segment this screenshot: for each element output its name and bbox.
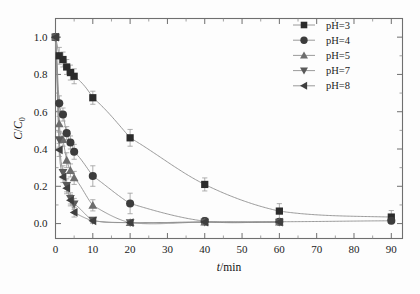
legend-label: pH=8 [326, 80, 350, 91]
data-point-pH=3-5 [71, 73, 78, 80]
data-point-pH=4-3 [63, 129, 71, 137]
x-tick-label: 30 [162, 243, 174, 255]
x-tick-label: 40 [199, 243, 211, 255]
x-axis-title: t/min [217, 261, 242, 273]
y-tick-label: 0.6 [34, 106, 48, 118]
data-point-pH=3-20 [127, 134, 134, 141]
legend-marker-pH=3 [301, 22, 308, 29]
data-point-pH=3-2 [59, 56, 66, 63]
y-tick-label: 1.0 [34, 31, 48, 43]
y-tick-label: 0.4 [34, 143, 48, 155]
chart-svg: 0102030405060708090 0.00.20.40.60.81.0 t… [0, 0, 420, 294]
y-tick-label: 0.2 [34, 180, 48, 192]
data-point-pH=4-5 [70, 148, 78, 156]
data-point-pH=4-1 [55, 99, 63, 107]
data-point-pH=4-90 [387, 217, 395, 225]
data-point-pH=4-20 [126, 199, 134, 207]
data-point-pH=3-10 [89, 94, 96, 101]
x-tick-label: 20 [125, 243, 137, 255]
x-axis-title-text: t/min [217, 261, 242, 273]
legend-label: pH=3 [326, 20, 350, 31]
x-tick-label: 90 [386, 243, 398, 255]
legend-label: pH=5 [326, 50, 350, 61]
legend-label: pH=7 [326, 65, 350, 76]
y-tick-label: 0.8 [34, 68, 48, 80]
x-tick-label: 0 [53, 243, 59, 255]
x-tick-label: 10 [87, 243, 99, 255]
legend-marker-pH=4 [300, 37, 307, 44]
chart-figure: 0102030405060708090 0.00.20.40.60.81.0 t… [0, 0, 420, 294]
data-point-pH=4-4 [66, 138, 74, 146]
legend-label: pH=4 [326, 35, 351, 46]
data-point-pH=3-60 [276, 207, 283, 214]
x-tick-label: 70 [311, 243, 323, 255]
x-tick-label: 80 [348, 243, 360, 255]
chart-legend: pH=3pH=4pH=5pH=7pH=8 [288, 13, 386, 95]
x-tick-label: 60 [274, 243, 286, 255]
data-point-pH=3-40 [201, 181, 208, 188]
x-tick-label: 50 [237, 243, 249, 255]
data-point-pH=4-2 [59, 110, 67, 118]
data-point-pH=4-10 [89, 172, 97, 180]
y-tick-label: 0.0 [34, 217, 48, 229]
